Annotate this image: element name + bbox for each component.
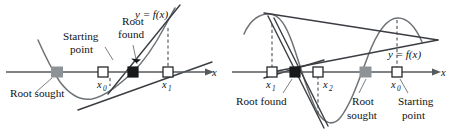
left-pointer-root-found <box>131 59 141 64</box>
right-marker-x1 <box>267 67 277 77</box>
left-leader-starting-point <box>105 47 113 60</box>
right-label-x-axis: x <box>440 67 446 78</box>
right-leader-root-sought <box>359 79 366 93</box>
right-tick-label-x2: x <box>322 79 328 90</box>
left-label-starting-point-line1: Starting <box>63 30 99 42</box>
left-label-starting-point-line2: point <box>70 43 94 55</box>
left-tick-sub-x0: 0 <box>103 84 107 93</box>
right-leader-root-found <box>283 79 292 93</box>
left-label-x-axis: x <box>211 67 217 78</box>
right-tick-label-x1: x <box>265 79 271 90</box>
right-panel-divergent: y = f(x) x Root found Root sought Starti… <box>228 0 455 140</box>
right-marker-root-sought <box>360 67 371 77</box>
right-tick-sub-x0: 0 <box>397 84 401 93</box>
newton-method-figure: Root sought Starting point Root found y … <box>0 0 455 140</box>
right-tick-label-x0: x <box>390 79 396 90</box>
right-leader-starting-point <box>400 79 408 93</box>
left-label-root-found-line2: found <box>118 28 145 40</box>
left-panel-convergent: Root sought Starting point Root found y … <box>0 0 228 140</box>
right-tick-sub-x2: 2 <box>329 84 333 93</box>
right-marker-x0 <box>392 67 402 77</box>
left-marker-root-found <box>128 67 138 77</box>
right-x-axis-arrowhead <box>432 69 441 76</box>
right-tick-sub-x1: 1 <box>272 84 276 93</box>
left-tick-sub-x1: 1 <box>168 84 172 93</box>
right-label-root-found: Root found <box>236 95 287 107</box>
left-tick-label-x1: x <box>161 79 167 90</box>
left-label-root-sought: Root sought <box>10 87 65 99</box>
left-label-function: y = f(x) <box>134 8 168 21</box>
left-tick-label-x0: x <box>96 79 102 90</box>
right-label-root-sought-line2: sought <box>347 109 378 121</box>
right-label-function: y = f(x) <box>387 48 421 61</box>
right-marker-x2 <box>313 67 323 77</box>
right-label-starting-point-line1: Starting <box>398 95 434 107</box>
left-marker-root-sought <box>52 67 63 77</box>
left-marker-x0 <box>98 67 108 77</box>
right-marker-root-found <box>290 67 300 77</box>
right-label-starting-point-line2: point <box>402 109 426 121</box>
left-marker-x1 <box>163 67 173 77</box>
right-label-root-sought-line1: Root <box>352 95 375 107</box>
